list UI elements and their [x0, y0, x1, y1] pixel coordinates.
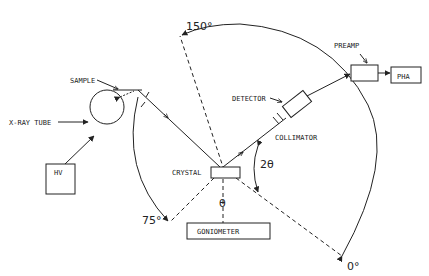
slit-mark [146, 92, 149, 97]
preamp-leader [360, 54, 367, 63]
slit-mark [141, 102, 145, 107]
angle-150-label: 150° [186, 20, 213, 33]
diagram-svg: PHA PREAMP CRYSTAL GONIOMETER HV X-RAY T… [0, 0, 429, 276]
arc-75-deg [133, 97, 168, 221]
arc-two-theta [254, 146, 258, 192]
line-75-deg [170, 178, 214, 222]
sample-leader [97, 80, 118, 89]
detector-label: DETECTOR [232, 95, 267, 103]
collimator-slit [277, 113, 283, 120]
angle-0-label: 0° [347, 260, 360, 273]
beam-arrow [238, 152, 243, 156]
beam-arrow [164, 114, 168, 118]
diffracted-beam [138, 90, 220, 167]
preamp-label: PREAMP [334, 42, 359, 50]
diagram-canvas: PHA PREAMP CRYSTAL GONIOMETER HV X-RAY T… [0, 0, 429, 276]
angle-75-label: 75° [142, 214, 162, 227]
preamp-box [351, 65, 378, 81]
theta-label: θ [219, 197, 226, 210]
crystal-label: CRYSTAL [172, 169, 202, 177]
goniometer-label: GONIOMETER [197, 228, 240, 236]
two-theta-label: 2θ [260, 158, 274, 171]
collimator-label: COLLIMATOR [275, 134, 318, 142]
xray-tube-label: X-RAY TUBE [9, 119, 51, 127]
hv-label: HV [54, 169, 63, 177]
detector-leader [270, 98, 282, 102]
hv-to-tube [65, 136, 94, 164]
tube-beam [120, 91, 134, 97]
pha-label: PHA [397, 73, 410, 81]
crystal-box [211, 167, 240, 178]
detector-to-preamp [307, 74, 350, 96]
sample-label: SAMPLE [70, 77, 95, 85]
line-0-deg [236, 178, 342, 256]
detector [282, 90, 311, 117]
xray-tube-circle [90, 90, 124, 124]
collimator-slit [273, 117, 279, 124]
